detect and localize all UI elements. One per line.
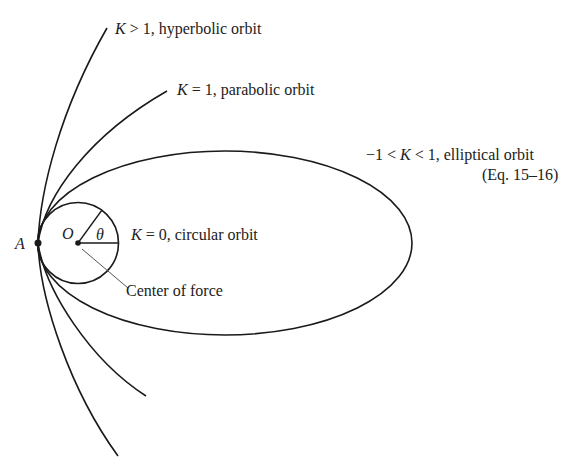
elliptical-equation-ref: (Eq. 15–16) [482,166,558,184]
theta-label: θ [96,226,104,244]
point-O-dot [75,240,81,246]
point-A-label: A [15,235,25,253]
point-A-dot [35,240,42,247]
point-O-label: O [62,225,74,243]
parabolic-label: K = 1, parabolic orbit [177,81,314,99]
elliptical-label: −1 < K < 1, elliptical orbit [366,146,534,164]
circular-label: K = 0, circular orbit [131,226,258,244]
orbit-diagram [0,0,581,468]
hyperbolic-label: K > 1, hyperbolic orbit [115,20,261,38]
center-of-force-label: Center of force [126,282,223,300]
